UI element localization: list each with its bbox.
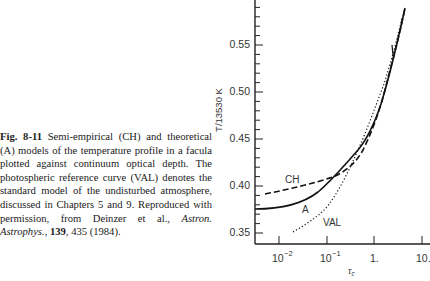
x-ticks (279, 236, 422, 244)
xtick-label: 1. (370, 252, 379, 264)
x-axis-label: τc (348, 266, 355, 277)
xtick-label: 10 (320, 252, 332, 264)
label-a: A (302, 204, 309, 215)
y-ticks (255, 7, 263, 233)
curve-marker (392, 45, 393, 55)
xtick-label: 10 (272, 252, 284, 264)
xtick-label: 10. (416, 252, 430, 264)
temperature-profile-chart: 0.55 0.50 0.45 0.40 0.35 T/13530 K 10 −2… (0, 0, 430, 281)
xtick-exponent: −2 (284, 249, 293, 258)
ytick-label: 0.50 (230, 85, 251, 97)
ytick-label: 0.55 (230, 38, 251, 50)
curve-val (293, 18, 402, 232)
xtick-exponent: −1 (332, 249, 341, 258)
ytick-label: 0.35 (230, 226, 251, 238)
label-val: VAL (323, 217, 342, 228)
x-tick-labels: 10 −2 10 −1 1. 10. (272, 249, 430, 264)
y-tick-labels: 0.55 0.50 0.45 0.40 0.35 (230, 38, 251, 238)
ytick-label: 0.40 (230, 179, 251, 191)
curve-a (255, 8, 405, 209)
ytick-label: 0.45 (230, 132, 251, 144)
y-axis-label: T/13530 K (213, 87, 224, 131)
label-ch: CH (285, 174, 299, 185)
curve-ch (265, 8, 405, 194)
